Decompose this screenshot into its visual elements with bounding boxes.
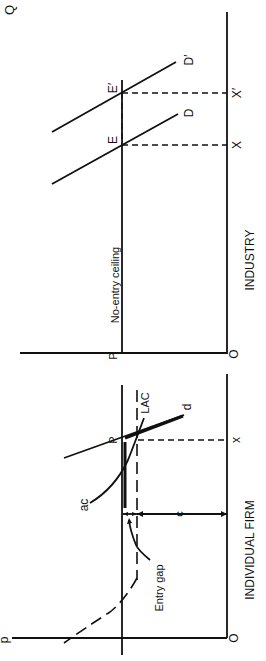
label-c: c [173, 511, 185, 517]
label-industry-origin: O [227, 349, 241, 358]
industry-panel: Q D′ D E′ E X′ X No-entry ceiling P O IN… [2, 5, 257, 360]
label-ac: ac [77, 499, 91, 512]
demand-curve-d [52, 114, 178, 184]
label-entry-gap: Entry gap [153, 564, 165, 611]
entry-gap-diagram: Q D′ D E′ E X′ X No-entry ceiling P O IN… [0, 0, 266, 661]
label-firm-p-axis: p [0, 636, 11, 643]
label-d-prime: D′ [182, 54, 196, 66]
entry-gap-pointer-head [127, 518, 132, 524]
demand-curve-d-prime [52, 62, 176, 132]
label-no-entry-ceiling: No-entry ceiling [109, 247, 121, 323]
label-firm-d: d [180, 404, 194, 411]
firm-panel: p O P LAC d ac x c Entry gap INDIVIDUAL … [0, 374, 257, 655]
firm-title: INDIVIDUAL FIRM [243, 500, 257, 600]
label-x-prime: X′ [230, 87, 244, 98]
label-industry-p: P [107, 352, 119, 359]
label-firm-p: P [107, 436, 119, 443]
lac-curve-extension [64, 578, 137, 643]
label-d: D [182, 108, 196, 117]
entry-gap-arrowhead-right [132, 512, 137, 516]
label-e: E [106, 136, 120, 144]
label-firm-origin: O [227, 633, 241, 642]
firm-demand-thick [125, 416, 183, 438]
label-firm-x: x [229, 437, 243, 443]
industry-title: INDUSTRY [243, 229, 257, 290]
label-lac: LAC [139, 392, 151, 413]
entry-gap-pointer [129, 520, 150, 560]
ac-curve [90, 418, 144, 503]
label-e-prime: E′ [106, 82, 120, 93]
entry-gap-arrowhead-left [123, 512, 128, 516]
c-arrowhead-left [137, 511, 143, 517]
label-q: Q [2, 5, 17, 15]
label-x: X [230, 141, 244, 149]
